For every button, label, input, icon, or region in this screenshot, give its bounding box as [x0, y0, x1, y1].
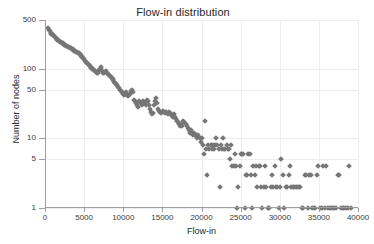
chart-title: Flow-in distribution — [0, 6, 366, 18]
x-tick-mark — [202, 208, 203, 212]
gridline-horizontal — [45, 159, 358, 160]
scatter-point — [202, 118, 208, 124]
y-tick-mark — [39, 69, 45, 70]
scatter-point — [287, 163, 293, 169]
x-tick-mark — [45, 208, 46, 212]
scatter-point — [279, 156, 285, 162]
gridline-vertical — [280, 20, 281, 208]
scatter-point — [277, 184, 283, 190]
scatter-point — [204, 172, 210, 178]
gridline-vertical — [123, 20, 124, 208]
x-tick-mark — [319, 208, 320, 212]
scatter-point — [336, 172, 342, 178]
y-tick-label: 500 — [2, 16, 36, 24]
gridline-vertical — [202, 20, 203, 208]
scatter-point — [220, 136, 226, 142]
gridline-horizontal — [45, 20, 358, 21]
scatter-point — [228, 142, 234, 148]
y-axis-line — [45, 20, 46, 208]
gridline-vertical — [84, 20, 85, 208]
scatter-point — [323, 163, 329, 169]
scatter-point — [213, 136, 219, 142]
scatter-point — [280, 172, 286, 178]
scatter-point — [262, 163, 268, 169]
scatter-point — [272, 163, 278, 169]
scatter-point — [297, 184, 303, 190]
x-tick-mark — [162, 208, 163, 212]
gridline-vertical — [358, 20, 359, 208]
scatter-point — [269, 172, 275, 178]
x-tick-label: 40000 — [335, 213, 374, 222]
y-tick-mark — [39, 90, 45, 91]
x-tick-mark — [84, 208, 85, 212]
scatter-point — [217, 184, 223, 190]
gridline-horizontal — [45, 90, 358, 91]
x-tick-mark — [358, 208, 359, 212]
x-tick-mark — [241, 208, 242, 212]
scatter-point — [252, 172, 258, 178]
plot-area — [45, 20, 358, 208]
scatter-point — [286, 172, 292, 178]
scatter-point — [232, 151, 238, 157]
gridline-vertical — [241, 20, 242, 208]
x-tick-mark — [123, 208, 124, 212]
y-tick-mark — [39, 20, 45, 21]
x-axis-title: Flow-in — [45, 226, 358, 236]
scatter-point — [347, 163, 353, 169]
y-tick-mark — [39, 159, 45, 160]
scatter-point — [227, 156, 233, 162]
y-tick-mark — [39, 138, 45, 139]
x-tick-mark — [280, 208, 281, 212]
y-axis-title: Number of nodes — [11, 49, 21, 169]
y-tick-label: 1 — [2, 204, 36, 212]
gridline-vertical — [319, 20, 320, 208]
scatter-point — [237, 163, 243, 169]
